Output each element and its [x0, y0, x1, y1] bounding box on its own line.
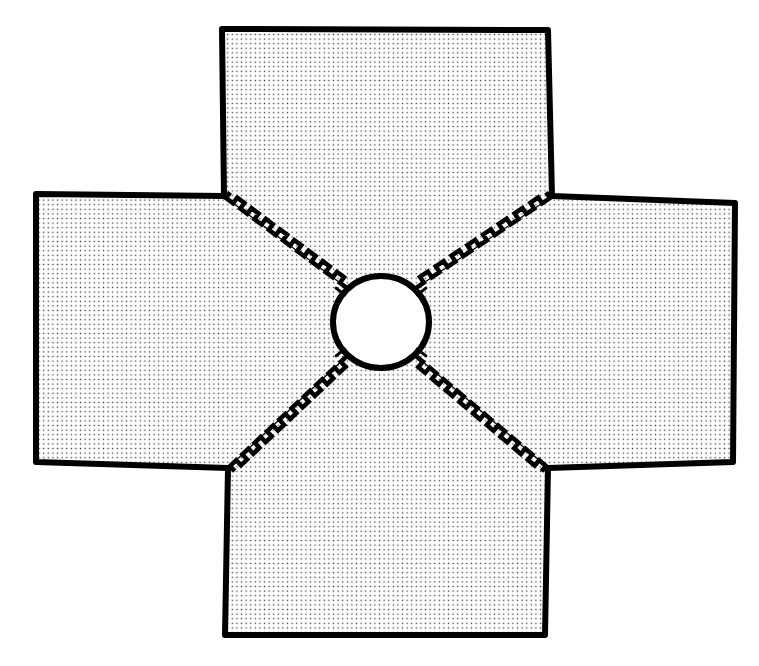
figure-root — [0, 0, 759, 666]
cruciform-specimen-figure — [0, 0, 759, 666]
central-hole-outline — [333, 276, 429, 368]
